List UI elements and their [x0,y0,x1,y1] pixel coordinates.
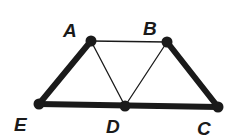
vertex-label-A: A [62,20,77,41]
vertex-E [34,99,45,110]
segment-AB [91,41,167,42]
vertex-A [86,36,97,47]
vertex-labels: ABCDE [14,18,211,139]
vertex-C [213,102,224,113]
vertex-label-D: D [106,116,120,137]
trapezoid-diagram: ABCDE [0,0,234,140]
segment-AD [91,41,125,106]
vertex-D [120,101,131,112]
segment-BC [167,42,218,107]
segments [39,41,218,107]
vertex-label-C: C [197,118,211,139]
segment-BD [125,42,167,106]
vertex-B [162,37,173,48]
vertex-label-B: B [143,18,157,39]
vertex-label-E: E [14,114,28,135]
segment-AE [39,41,91,104]
